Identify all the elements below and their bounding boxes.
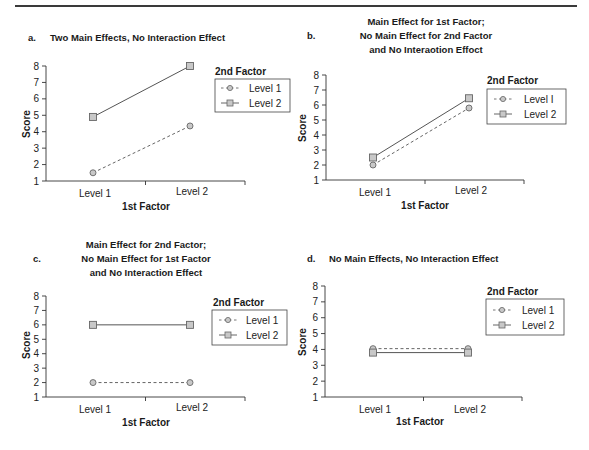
legend-title: 2nd Factor bbox=[487, 286, 538, 297]
panel-d-xlabel: 1st Factor bbox=[396, 416, 444, 427]
x-tick-label: Level 2 bbox=[176, 402, 209, 413]
circle-marker-icon bbox=[466, 105, 472, 111]
y-tick-label: 5 bbox=[33, 334, 39, 345]
panel-a-xlabel: 1st Factor bbox=[122, 201, 170, 212]
panel-b-title-line-2: No Main Effect for 2nd Factor bbox=[360, 30, 493, 41]
y-tick-label: 2 bbox=[33, 377, 39, 388]
circle-marker-icon bbox=[187, 123, 193, 129]
legend-level2-label: Level 2 bbox=[522, 320, 555, 331]
circle-marker-icon bbox=[90, 380, 96, 386]
panel-d-axes: 12345678Level 1Level 2 bbox=[312, 281, 522, 416]
panel-a-axes: 12345678Level 1Level 2 bbox=[33, 61, 245, 200]
y-tick-label: 1 bbox=[33, 392, 39, 403]
legend-level2-label: Level 2 bbox=[246, 330, 279, 341]
y-tick-label: 2 bbox=[33, 159, 39, 170]
y-tick-label: 8 bbox=[313, 70, 319, 81]
y-tick-label: 6 bbox=[33, 93, 39, 104]
panel-c-xlabel: 1st Factor bbox=[122, 417, 170, 428]
square-marker-icon bbox=[465, 349, 472, 356]
figure-canvas: a. Two Main Effects, No Interaction Effe… bbox=[0, 0, 589, 450]
y-tick-label: 8 bbox=[33, 61, 39, 72]
y-tick-label: 7 bbox=[33, 77, 39, 88]
panel-c: c. Main Effect for 2nd Factor; No Main E… bbox=[21, 239, 287, 428]
panel-b-legend: 2nd Factor Level I Level 2 bbox=[487, 75, 566, 124]
y-tick-label: 1 bbox=[312, 392, 318, 403]
legend-level1-label: Level 1 bbox=[522, 305, 555, 316]
square-marker-icon bbox=[187, 63, 194, 70]
legend-circle-marker-icon bbox=[499, 307, 504, 312]
panel-a-ylabel: Score bbox=[21, 110, 32, 138]
panel-c-legend: 2nd Factor Level 1 Level 2 bbox=[212, 297, 287, 345]
panel-c-axes: 12345678Level 1Level 2 bbox=[33, 291, 245, 416]
legend-level2-label: Level 2 bbox=[524, 109, 557, 120]
y-tick-label: 2 bbox=[312, 376, 318, 387]
legend-title: 2nd Factor bbox=[213, 297, 264, 308]
panel-d-title: No Main Effects, No Interaction Effect bbox=[329, 253, 499, 264]
square-marker-icon bbox=[370, 349, 377, 356]
panel-a-letter: a. bbox=[28, 32, 36, 43]
square-marker-icon bbox=[466, 95, 473, 102]
y-tick-label: 1 bbox=[313, 175, 319, 186]
panel-d-legend: 2nd Factor Level 1 Level 2 bbox=[486, 286, 564, 335]
legend-title: 2nd Factor bbox=[487, 75, 538, 86]
legend-square-marker-icon bbox=[225, 332, 231, 338]
panel-c-title-line-1: Main Effect for 2nd Factor; bbox=[86, 239, 206, 250]
legend-square-marker-icon bbox=[227, 100, 233, 106]
series-line-level-2 bbox=[373, 98, 469, 157]
legend-level2-label: Level 2 bbox=[249, 98, 282, 109]
x-tick-label: Level 1 bbox=[79, 404, 112, 415]
panel-d: d. No Main Effects, No Interaction Effec… bbox=[297, 253, 564, 427]
panel-b-ylabel: Score bbox=[297, 114, 308, 142]
y-tick-label: 5 bbox=[312, 328, 318, 339]
y-tick-label: 3 bbox=[33, 363, 39, 374]
y-tick-label: 6 bbox=[312, 312, 318, 323]
legend-title: 2nd Factor bbox=[215, 66, 266, 77]
square-marker-icon bbox=[90, 113, 97, 120]
legend-level1-label: Level I bbox=[524, 94, 553, 105]
legend-circle-marker-icon bbox=[227, 85, 232, 90]
y-tick-label: 8 bbox=[312, 281, 318, 292]
series-line-level-2 bbox=[93, 66, 190, 117]
panel-b-xlabel: 1st Factor bbox=[401, 200, 449, 211]
legend-square-marker-icon bbox=[499, 322, 505, 328]
panel-c-ylabel: Score bbox=[21, 331, 32, 359]
panel-b-letter: b. bbox=[307, 30, 315, 41]
panel-b-title-line-1: Main Effect for 1st Factor; bbox=[367, 16, 484, 27]
square-marker-icon bbox=[370, 154, 377, 161]
y-tick-label: 8 bbox=[33, 291, 39, 302]
panel-d-letter: d. bbox=[307, 253, 315, 264]
y-tick-label: 3 bbox=[312, 360, 318, 371]
y-tick-label: 3 bbox=[33, 143, 39, 154]
circle-marker-icon bbox=[90, 170, 96, 176]
circle-marker-icon bbox=[370, 162, 376, 168]
legend-level1-label: Level 1 bbox=[246, 315, 279, 326]
x-tick-label: Level 2 bbox=[455, 185, 488, 196]
legend-level1-label: Level 1 bbox=[249, 83, 282, 94]
legend-circle-marker-icon bbox=[500, 96, 505, 101]
y-tick-label: 5 bbox=[313, 115, 319, 126]
y-tick-label: 6 bbox=[313, 100, 319, 111]
panel-a-legend: 2nd Factor Level 1 Level 2 bbox=[215, 66, 290, 112]
square-marker-icon bbox=[187, 321, 194, 328]
legend-square-marker-icon bbox=[500, 111, 506, 117]
series-line-level-1 bbox=[373, 108, 469, 165]
x-tick-label: Level 2 bbox=[454, 404, 487, 415]
x-tick-label: Level 1 bbox=[359, 404, 392, 415]
panel-c-letter: c. bbox=[33, 253, 41, 264]
panel-c-title-line-3: and No Interaction Effect bbox=[90, 267, 203, 278]
panel-a: a. Two Main Effects, No Interaction Effe… bbox=[21, 32, 290, 212]
series-line-level-1 bbox=[93, 126, 190, 173]
y-tick-label: 7 bbox=[33, 305, 39, 316]
legend-circle-marker-icon bbox=[225, 317, 230, 322]
panel-a-title: Two Main Effects, No Interaction Effect bbox=[50, 32, 226, 43]
y-tick-label: 4 bbox=[313, 130, 319, 141]
y-tick-label: 7 bbox=[313, 85, 319, 96]
panel-b-title-line-3: and No Interaotion Effoct bbox=[369, 44, 483, 55]
x-tick-label: Level 2 bbox=[176, 186, 209, 197]
y-tick-label: 4 bbox=[312, 344, 318, 355]
y-tick-label: 4 bbox=[33, 126, 39, 137]
y-tick-label: 2 bbox=[313, 160, 319, 171]
panel-b: b. Main Effect for 1st Factor; No Main E… bbox=[297, 16, 566, 211]
y-tick-label: 1 bbox=[33, 176, 39, 187]
y-tick-label: 7 bbox=[312, 296, 318, 307]
